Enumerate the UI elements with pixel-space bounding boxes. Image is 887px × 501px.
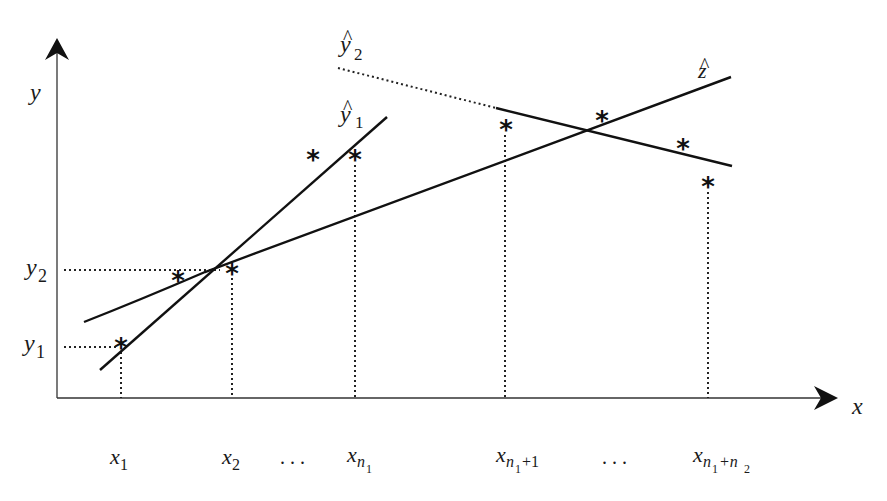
svg-text:x: x bbox=[346, 442, 357, 467]
y-axis-label: y bbox=[28, 79, 41, 105]
svg-text:1: 1 bbox=[712, 462, 718, 476]
line-y-hat-1 bbox=[100, 117, 387, 370]
y-axis bbox=[45, 38, 69, 398]
svg-text:n: n bbox=[506, 453, 514, 470]
data-point: * bbox=[171, 266, 185, 296]
svg-text:x: x bbox=[221, 444, 232, 469]
regression-lines bbox=[84, 77, 732, 370]
svg-text:2: 2 bbox=[38, 266, 47, 286]
data-point: * bbox=[676, 134, 690, 164]
x-tick-ellipsis: . . . bbox=[602, 446, 627, 468]
svg-text:2: 2 bbox=[232, 456, 240, 473]
svg-text:1: 1 bbox=[355, 113, 364, 132]
x-tick-x2: x 2 bbox=[221, 444, 240, 473]
data-point: * bbox=[348, 145, 362, 175]
line-y-hat-2 bbox=[496, 108, 732, 166]
svg-text:x: x bbox=[109, 444, 120, 469]
x-tick-ellipsis: . . . bbox=[280, 446, 305, 468]
data-point: * bbox=[225, 259, 239, 289]
svg-text:+1: +1 bbox=[522, 453, 539, 470]
svg-text:y: y bbox=[338, 101, 351, 127]
x-axis-label: x bbox=[851, 393, 863, 419]
label-y-hat-1: ^ y 1 bbox=[338, 96, 364, 132]
label-y-hat-2: ^ y 2 bbox=[338, 26, 363, 64]
svg-text:y: y bbox=[338, 31, 351, 57]
svg-text:z: z bbox=[697, 58, 707, 83]
svg-text:2: 2 bbox=[744, 462, 750, 476]
x-tick-xn1: x n 1 bbox=[346, 442, 372, 476]
svg-text:1: 1 bbox=[36, 342, 45, 362]
svg-text:1: 1 bbox=[515, 462, 521, 476]
regression-diagram: y x * * * * * * * * * ^ y 2 ^ y 1 bbox=[0, 0, 887, 501]
y-tick-y1: y 1 bbox=[22, 330, 45, 362]
data-point: * bbox=[595, 106, 609, 136]
svg-text:1: 1 bbox=[366, 462, 372, 476]
data-point: * bbox=[114, 333, 128, 363]
data-point: * bbox=[499, 115, 513, 145]
x-axis bbox=[57, 386, 838, 410]
x-tick-xn1-plus-1: x n 1 +1 bbox=[495, 442, 539, 476]
svg-text:x: x bbox=[495, 442, 506, 467]
x-tick-x1: x 1 bbox=[109, 444, 128, 473]
svg-text:+n: +n bbox=[719, 453, 738, 470]
y-tick-y2: y 2 bbox=[24, 254, 47, 286]
svg-text:2: 2 bbox=[354, 45, 363, 64]
svg-text:y: y bbox=[24, 254, 37, 280]
data-points: * * * * * * * * * bbox=[114, 106, 715, 363]
svg-text:n: n bbox=[703, 453, 711, 470]
svg-text:x: x bbox=[692, 442, 703, 467]
label-z-hat: ^ z bbox=[697, 54, 710, 83]
data-point: * bbox=[701, 172, 715, 202]
svg-text:y: y bbox=[22, 330, 35, 356]
data-point: * bbox=[306, 145, 320, 175]
y-hat-2-extension bbox=[338, 68, 496, 108]
svg-text:n: n bbox=[357, 453, 365, 470]
svg-text:1: 1 bbox=[120, 456, 128, 473]
x-tick-xn1-plus-n2: x n 1 +n 2 bbox=[692, 442, 750, 476]
